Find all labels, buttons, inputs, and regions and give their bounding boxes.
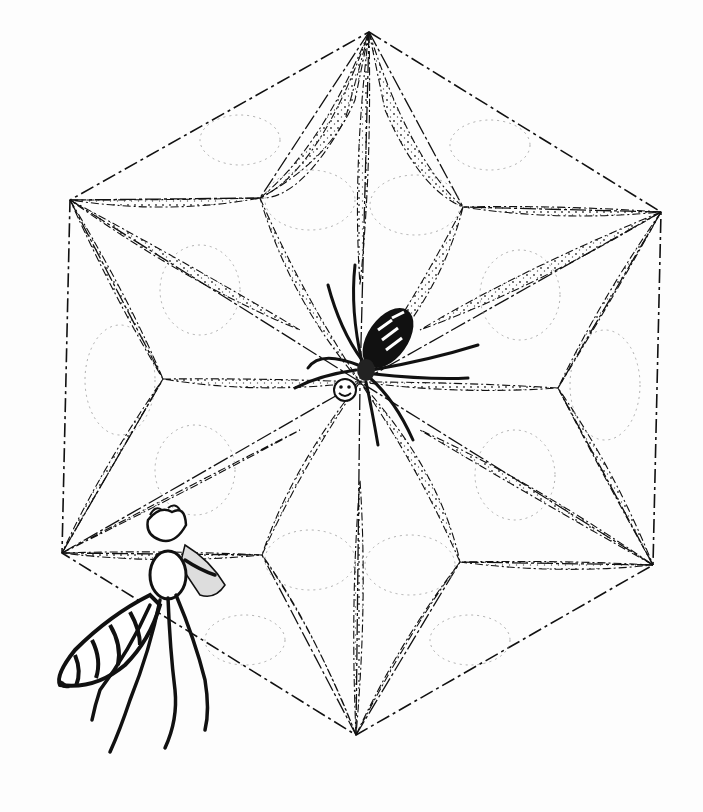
wasp-head (148, 510, 187, 541)
wasp-abdomen (59, 595, 160, 686)
spider-face (334, 379, 356, 401)
illustration-canvas: Spider Wasp (0, 0, 703, 812)
web-drawing (0, 0, 703, 812)
wasp (59, 505, 225, 752)
wasp-thorax (150, 551, 186, 599)
spider-thorax (357, 359, 375, 381)
